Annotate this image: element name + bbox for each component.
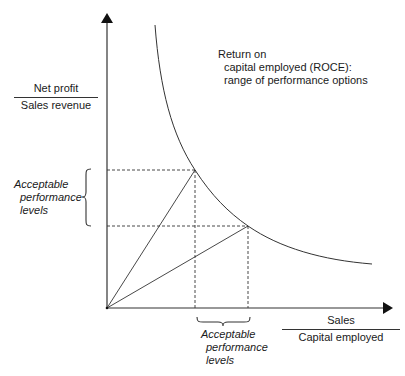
x-range-line-1: Acceptable (201, 328, 268, 341)
y-axis-denominator: Sales revenue (14, 99, 98, 112)
chart-title: Return on capital employed (ROCE): range… (218, 48, 368, 87)
x-range-line-2: performance (201, 341, 268, 354)
title-line-2: capital employed (ROCE): (218, 61, 368, 74)
y-axis-fraction-bar (14, 97, 98, 98)
y-range-line-2: performance (14, 191, 82, 204)
y-range-line-1: Acceptable (14, 178, 82, 191)
ray-to-point-b (107, 226, 248, 308)
y-axis-label: Net profit Sales revenue (14, 82, 98, 112)
x-axis-fraction-bar (282, 329, 400, 330)
ray-to-point-a (107, 170, 195, 308)
x-range-brace-icon (197, 317, 250, 326)
title-line-1: Return on (218, 48, 368, 61)
title-line-3: range of performance options (218, 74, 368, 87)
x-range-line-3: levels (201, 354, 268, 367)
x-axis-denominator: Capital employed (282, 331, 400, 344)
origin-point (106, 307, 109, 310)
x-axis-label: Sales Capital employed (282, 314, 400, 344)
y-range-line-3: levels (14, 204, 82, 217)
y-axis-arrow-icon (101, 13, 113, 23)
x-axis-numerator: Sales (282, 314, 400, 327)
y-range-label: Acceptable performance levels (14, 178, 82, 217)
y-range-brace-icon (82, 169, 91, 226)
x-range-label: Acceptable performance levels (201, 328, 268, 367)
x-axis-arrow-icon (383, 302, 393, 314)
y-axis-numerator: Net profit (14, 82, 98, 95)
